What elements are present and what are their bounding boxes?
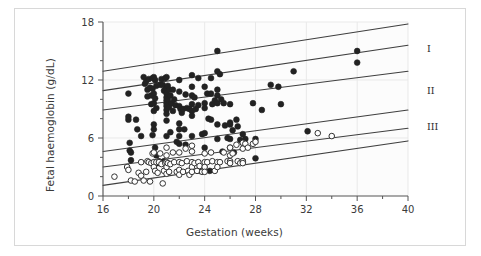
data-point-open [170,150,176,156]
data-point-filled [202,84,208,90]
data-point-filled [170,108,176,114]
data-point-open [132,179,138,185]
x-tick-label: 24 [198,204,211,215]
x-tick-label: 20 [147,204,160,215]
data-point-open [141,178,147,184]
data-point-filled [192,95,198,101]
data-point-filled [268,82,274,88]
data-point-filled [134,126,140,132]
data-point-filled [126,91,132,97]
data-point-open [166,169,172,175]
y-axis-ticks: 061218 [81,17,103,202]
y-tick-label: 0 [88,191,94,202]
x-axis-ticks: 16202428323640 [97,196,415,215]
data-point-open [147,179,153,185]
data-point-filled [208,91,214,97]
data-point-filled [278,101,284,107]
data-point-filled [291,68,297,74]
data-point-filled [127,140,133,146]
data-point-filled [152,95,158,101]
data-point-open [160,181,166,187]
data-point-filled [234,117,240,123]
data-point-filled [176,141,182,147]
data-point-filled [176,133,182,139]
data-point-filled [305,128,311,134]
data-point-open [217,159,223,165]
data-point-open [189,149,195,155]
data-point-filled [189,84,195,90]
data-point-open [227,145,233,151]
data-point-open [208,150,214,156]
data-point-filled [189,72,195,78]
data-point-open [189,143,195,149]
data-point-open [315,130,321,136]
data-point-filled [214,48,220,54]
data-point-open [143,169,149,175]
data-point-open [230,151,236,157]
data-point-open [112,174,118,180]
data-point-open [253,139,259,145]
x-tick-label: 32 [300,204,313,215]
data-point-filled [227,122,233,128]
data-point-open [138,159,144,165]
y-tick-label: 12 [81,75,94,86]
data-point-filled [176,89,182,95]
data-point-filled [150,132,156,138]
band-annotations: IIIIII [427,43,439,131]
data-point-filled [235,124,241,130]
data-point-open [164,145,170,151]
data-point-filled [250,100,256,106]
data-point-filled [153,105,159,111]
data-point-open [157,151,163,157]
data-point-filled [214,87,220,93]
data-point-open [176,150,182,156]
data-point-filled [214,122,220,128]
data-point-filled [128,157,134,163]
data-point-filled [167,129,173,135]
data-point-filled [214,136,220,142]
band-label-III: III [427,121,439,132]
data-point-filled [195,102,201,108]
data-point-open [329,133,335,139]
data-point-filled [275,84,281,90]
data-point-open [155,170,161,176]
plot-canvas: 06121816202428323640IIIIII [0,0,481,256]
data-point-open [240,160,246,166]
data-point-open [202,151,208,157]
data-point-filled [176,77,182,83]
data-point-filled [152,77,158,83]
x-tick-label: 28 [249,204,262,215]
x-tick-label: 36 [351,204,364,215]
data-point-filled [151,126,157,132]
data-point-filled [202,130,208,136]
data-point-filled [217,71,223,77]
data-point-open [234,142,240,148]
band-label-I: I [427,43,431,54]
data-point-open [202,169,208,175]
y-axis-title: Fetal haemoglobin (g/dL) [44,58,56,192]
data-point-filled [195,75,201,81]
data-point-open [227,160,233,166]
data-point-filled [227,101,233,107]
data-point-open [221,150,227,156]
data-point-filled [164,111,170,117]
data-point-filled [183,92,189,98]
data-point-filled [189,101,195,107]
data-point-filled [170,87,176,93]
scatter-chart: Fetal haemoglobin (g/dL) Gestation (week… [0,0,481,256]
x-axis-title: Gestation (weeks) [186,226,283,238]
y-tick-label: 18 [81,17,94,28]
data-point-filled [208,75,214,81]
data-point-open [183,146,189,152]
data-point-filled [128,150,134,156]
data-point-filled [133,117,139,123]
data-point-filled [259,107,265,113]
data-point-filled [253,155,259,161]
data-point-filled [354,48,360,54]
x-tick-label: 16 [97,204,110,215]
data-point-filled [164,74,170,80]
data-point-open [164,153,170,159]
data-point-filled [354,60,360,66]
data-point-filled [227,136,233,142]
data-point-filled [202,145,208,151]
